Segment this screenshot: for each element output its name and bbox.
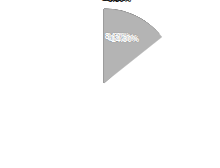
pie-chart-canvas — [0, 0, 220, 168]
pie-chart: 12.40%11.20%3.40%9.30%3.90%13.40%8.10%5.… — [0, 0, 220, 168]
pie-slice[interactable] — [104, 9, 162, 83]
pie-slices-group — [104, 9, 162, 83]
